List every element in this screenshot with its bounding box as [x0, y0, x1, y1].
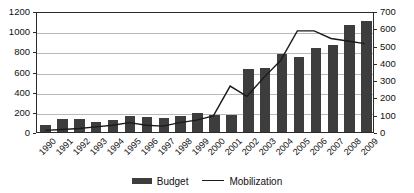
y-right-tick-label: 200	[380, 93, 410, 103]
x-axis-labels: 1990199119921993199419951996199719981999…	[36, 133, 374, 171]
y-left-tick-label: 200	[0, 108, 30, 118]
y-right-tick-label: 500	[380, 42, 410, 52]
y-left-tick	[33, 133, 36, 134]
y-left-tick-label: 600	[0, 68, 30, 78]
y-right-tick-label: 0	[380, 128, 410, 138]
y-left-tick	[33, 52, 36, 53]
y-right-tick-label: 700	[380, 7, 410, 17]
y-right-tick	[374, 12, 377, 13]
y-right-tick	[374, 98, 377, 99]
y-left-tick-label: 1000	[0, 27, 30, 37]
bar-swatch-icon	[132, 178, 152, 184]
y-right-tick-label: 100	[380, 111, 410, 121]
y-right-tick	[374, 64, 377, 65]
plot-area	[36, 12, 374, 133]
legend-item-budget: Budget	[132, 176, 189, 187]
y-left-tick-label: 800	[0, 47, 30, 57]
y-left-tick	[33, 93, 36, 94]
y-right-tick	[374, 133, 377, 134]
y-left-tick-label: 400	[0, 88, 30, 98]
y-left-tick	[33, 113, 36, 114]
line-swatch-icon	[202, 178, 224, 184]
y-left-tick	[33, 73, 36, 74]
line-series-mobilization	[37, 13, 373, 132]
legend-item-mobilization: Mobilization	[202, 176, 282, 187]
y-right-tick-label: 600	[380, 24, 410, 34]
chart-container: 1990199119921993199419951996199719981999…	[0, 0, 414, 193]
y-left-tick	[33, 32, 36, 33]
y-left-tick-label: 1200	[0, 7, 30, 17]
y-right-tick	[374, 81, 377, 82]
legend-label-mobilization: Mobilization	[229, 176, 282, 187]
y-right-tick	[374, 29, 377, 30]
y-right-tick	[374, 47, 377, 48]
y-right-tick-label: 400	[380, 59, 410, 69]
y-left-tick	[33, 12, 36, 13]
y-right-tick	[374, 116, 377, 117]
y-right-tick-label: 300	[380, 76, 410, 86]
legend-label-budget: Budget	[157, 176, 189, 187]
y-left-tick-label: 0	[0, 128, 30, 138]
chart-legend: Budget Mobilization	[0, 172, 414, 190]
